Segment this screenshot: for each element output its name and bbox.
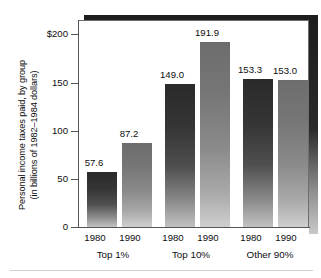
y-tick-mark-100 <box>71 131 79 132</box>
y-tick-mark-150 <box>71 83 79 84</box>
y-tick-mark-200 <box>71 34 79 35</box>
y-tick-label-200: $200 <box>8 29 68 39</box>
y-tick-label-100: 100 <box>8 126 68 136</box>
x-group-label-other90: Other 90% <box>243 249 297 260</box>
bar-top1-1980[interactable] <box>87 172 117 227</box>
bar-value-top1-1980: 57.6 <box>72 158 116 168</box>
bar-top10-1980[interactable] <box>165 84 195 227</box>
bar-other90-1990[interactable] <box>278 80 308 227</box>
bar-top10-1990[interactable] <box>200 42 230 227</box>
bar-other90-1980[interactable] <box>243 79 273 227</box>
bar-value-other90-1990: 153.0 <box>262 66 308 76</box>
x-tick-label-1: 1990 <box>107 232 153 243</box>
bar-value-top1-1990: 87.2 <box>107 129 151 139</box>
y-tick-label-0: 0 <box>8 222 68 232</box>
bars-layer <box>79 20 310 227</box>
bar-top1-1990[interactable] <box>122 143 152 227</box>
x-group-label-top1: Top 1% <box>89 249 137 260</box>
bar-chart-figure: Personal income taxes paid, by group (in… <box>0 0 321 278</box>
x-tick-label-3: 1990 <box>185 232 231 243</box>
bar-value-top10-1980: 149.0 <box>149 70 195 80</box>
plot-shadow-right <box>309 15 318 234</box>
y-tick-label-150: 150 <box>8 78 68 88</box>
bottom-divider <box>10 270 313 271</box>
x-group-label-top10: Top 10% <box>167 249 215 260</box>
x-axis-line <box>78 227 310 228</box>
y-tick-mark-0 <box>71 227 79 228</box>
x-tick-label-5: 1990 <box>263 232 309 243</box>
y-tick-label-50: 50 <box>8 174 68 184</box>
bar-value-top10-1990: 191.9 <box>184 28 230 38</box>
y-tick-mark-50 <box>71 179 79 180</box>
